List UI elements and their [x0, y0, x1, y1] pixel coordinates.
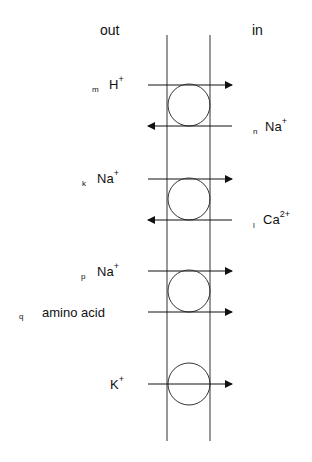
label-na-3: Na+ — [97, 265, 119, 278]
tag-p: p — [81, 273, 85, 281]
label-amino-acid: amino acid — [42, 306, 105, 319]
label-out: out — [100, 23, 119, 37]
transporter-1 — [168, 84, 210, 126]
label-k: K+ — [110, 378, 124, 391]
label-na-1: Na+ — [265, 120, 287, 133]
label-in: in — [252, 23, 263, 37]
tag-l: l — [253, 222, 255, 230]
membrane-diagram — [0, 0, 312, 462]
label-ca: Ca2+ — [263, 213, 290, 226]
tag-k: k — [82, 180, 86, 188]
transporter-3 — [168, 270, 210, 312]
label-h: H+ — [109, 78, 124, 91]
tag-q: q — [19, 313, 23, 321]
transporter-2 — [168, 178, 210, 220]
tag-n: n — [253, 128, 257, 136]
tag-m: m — [92, 86, 99, 94]
label-na-2: Na+ — [97, 172, 119, 185]
